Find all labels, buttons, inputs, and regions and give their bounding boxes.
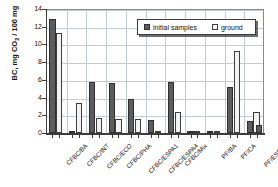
x-axis-category-label: PF/CA [239,142,257,160]
legend-label-ground: ground [221,24,243,31]
chart-legend: initial samples ground [137,19,256,35]
light-square-swatch-icon [212,24,218,30]
bar-chart: BC, mg CO2 / 100 mg 02468101214 CFBC/BAC… [0,0,278,187]
x-axis-category-label: PF/BA [220,142,238,160]
legend-item-initial-samples: initial samples [144,24,197,31]
x-axis-category-label: PF/ESPA1 [262,142,278,168]
legend-label-initial-samples: initial samples [153,24,197,31]
legend-item-ground: ground [212,24,243,31]
dark-square-swatch-icon [144,24,150,30]
